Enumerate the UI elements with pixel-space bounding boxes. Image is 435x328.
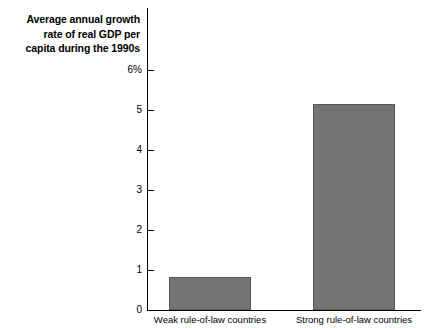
bar-chart: Average annual growth rate of real GDP p…	[0, 0, 435, 328]
y-tick-label: 5	[100, 105, 142, 115]
chart-title: Average annual growth rate of real GDP p…	[4, 12, 140, 56]
bar	[313, 104, 395, 310]
y-tick-mark	[148, 110, 154, 111]
y-tick-mark	[148, 70, 154, 71]
y-tick-mark	[148, 230, 154, 231]
y-tick-label: 4	[100, 145, 142, 155]
y-tick-mark	[148, 310, 154, 311]
y-tick-mark	[148, 270, 154, 271]
bar	[169, 277, 251, 310]
y-tick-label: 2	[100, 225, 142, 235]
y-tick-label: 1	[100, 265, 142, 275]
y-tick-label: 3	[100, 185, 142, 195]
y-tick-mark	[148, 150, 154, 151]
x-axis-label: Strong rule-of-law countries	[264, 314, 435, 326]
x-axis-line	[147, 310, 421, 311]
y-tick-label: 6%	[100, 65, 142, 75]
y-tick-mark	[148, 190, 154, 191]
y-axis-line	[147, 8, 148, 311]
